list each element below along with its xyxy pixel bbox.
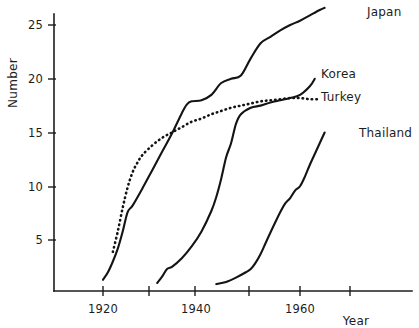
series-label-korea: Korea	[321, 67, 356, 81]
x-tick-label-1940: 1940	[181, 302, 211, 316]
x-tick-label-1920: 1920	[88, 302, 118, 316]
y-tick-label-25: 25	[28, 18, 43, 32]
chart-background	[0, 0, 419, 328]
x-axis-title: Year	[342, 314, 370, 328]
y-axis-title: Number	[6, 58, 20, 108]
line-chart-figure: 25 20 15 10 5 1920 1940 1960 Number Year	[0, 0, 419, 328]
y-tick-label-15: 15	[28, 126, 43, 140]
chart-container: 25 20 15 10 5 1920 1940 1960 Number Year	[0, 0, 419, 328]
series-label-japan: Japan	[366, 5, 401, 19]
series-label-turkey: Turkey	[320, 90, 361, 104]
y-tick-label-20: 20	[28, 72, 43, 86]
y-tick-label-5: 5	[35, 233, 43, 247]
x-tick-label-1960: 1960	[285, 302, 315, 316]
y-tick-label-10: 10	[28, 180, 43, 194]
series-label-thailand: Thailand	[358, 126, 412, 140]
